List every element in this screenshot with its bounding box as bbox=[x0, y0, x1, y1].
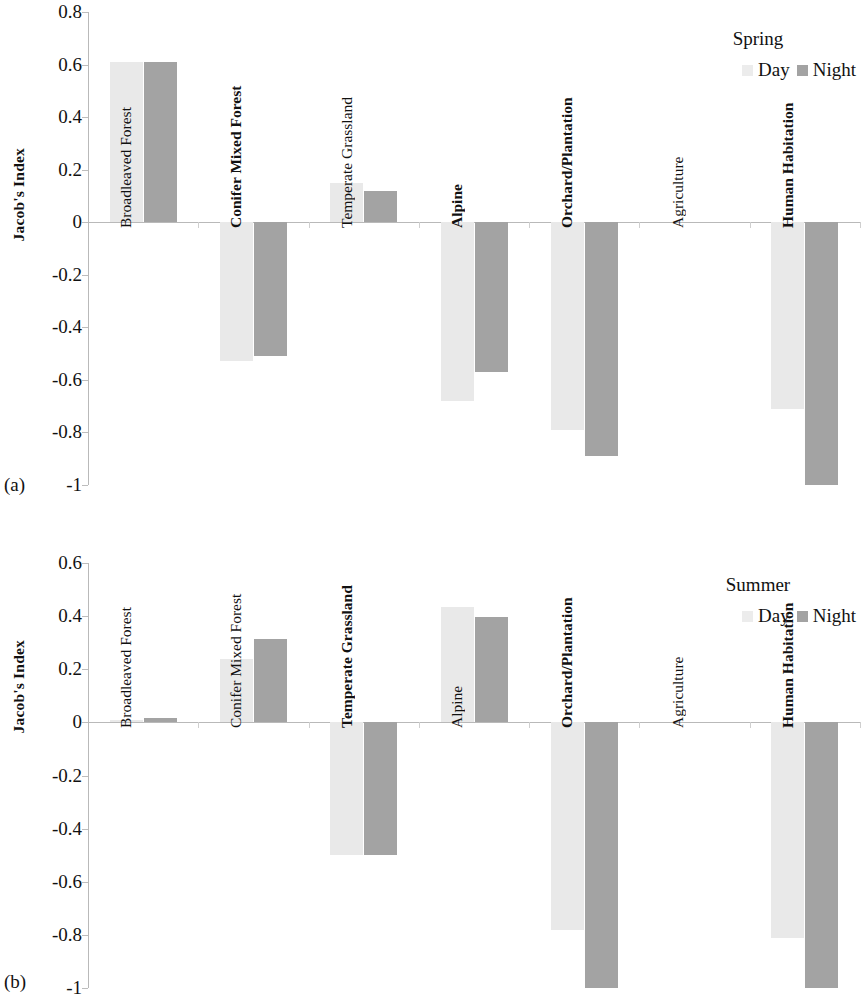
bar-night-4 bbox=[585, 222, 618, 456]
bar-day-3 bbox=[441, 222, 474, 401]
legend-a: Spring Day Night bbox=[660, 28, 856, 81]
bar-night-6 bbox=[805, 722, 838, 988]
y-tick-mark bbox=[82, 380, 88, 381]
legend-title-b: Summer bbox=[660, 574, 856, 596]
x-category-label: Temperate Grassland bbox=[338, 97, 356, 228]
y-tick-mark bbox=[82, 327, 88, 328]
y-tick-mark bbox=[82, 222, 88, 223]
x-category-label: Orchard/Plantation bbox=[558, 98, 576, 229]
y-tick-label: 0.8 bbox=[58, 2, 82, 21]
bar-day-4 bbox=[551, 722, 584, 929]
x-category-label: Agriculture bbox=[669, 157, 687, 228]
bar-night-3 bbox=[475, 222, 508, 372]
y-tick-mark bbox=[82, 616, 88, 617]
legend-item-day-a: Day bbox=[742, 59, 790, 81]
y-axis-line bbox=[88, 563, 89, 988]
y-tick-label: 0.2 bbox=[58, 659, 82, 678]
x-tick-mark bbox=[860, 722, 861, 728]
y-axis-title-b: Jacob's Index bbox=[10, 640, 28, 733]
bar-day-6 bbox=[771, 222, 804, 409]
y-tick-label: -0.4 bbox=[52, 317, 82, 336]
x-category-label: Agriculture bbox=[669, 657, 687, 728]
bar-day-1 bbox=[220, 222, 253, 361]
x-category-label: Alpine bbox=[448, 184, 466, 228]
y-tick-mark bbox=[82, 669, 88, 670]
legend-label-night-a: Night bbox=[813, 59, 856, 81]
legend-item-day-b: Day bbox=[742, 605, 790, 627]
x-tick-mark bbox=[529, 722, 530, 728]
x-category-label: Human Habitation bbox=[779, 103, 797, 228]
y-tick-mark bbox=[82, 275, 88, 276]
y-tick-mark bbox=[82, 485, 88, 486]
x-category-label: Orchard/Plantation bbox=[558, 598, 576, 729]
y-tick-label: 0.6 bbox=[58, 553, 82, 572]
y-tick-label: -0.4 bbox=[52, 819, 82, 838]
y-tick-mark bbox=[82, 117, 88, 118]
y-tick-label: 0 bbox=[73, 712, 83, 731]
y-tick-label: -0.6 bbox=[52, 872, 82, 891]
x-tick-mark bbox=[309, 722, 310, 728]
y-tick-mark bbox=[82, 882, 88, 883]
y-tick-label: -1 bbox=[66, 475, 82, 494]
legend-label-day-a: Day bbox=[758, 59, 790, 81]
x-tick-mark bbox=[639, 222, 640, 228]
x-tick-mark bbox=[419, 222, 420, 228]
x-tick-mark bbox=[309, 222, 310, 228]
bar-night-6 bbox=[805, 222, 838, 485]
bar-night-1 bbox=[254, 639, 287, 723]
y-tick-mark bbox=[82, 563, 88, 564]
x-category-label: Broadleaved Forest bbox=[117, 607, 135, 728]
x-category-label: Conifer Mixed Forest bbox=[227, 86, 245, 228]
y-tick-label: 0 bbox=[73, 212, 83, 231]
chart-panel-b: Jacob's Index (b) 0.60.40.20-0.2-0.4-0.6… bbox=[0, 512, 863, 1003]
bar-day-6 bbox=[771, 722, 804, 937]
legend-label-day-b: Day bbox=[758, 605, 790, 627]
y-tick-mark bbox=[82, 432, 88, 433]
y-tick-mark bbox=[82, 988, 88, 989]
legend-label-night-b: Night bbox=[813, 605, 856, 627]
bar-night-1 bbox=[254, 222, 287, 356]
bar-night-3 bbox=[475, 617, 508, 722]
y-tick-label: -0.8 bbox=[52, 925, 82, 944]
y-axis-line bbox=[88, 12, 89, 485]
bar-night-0 bbox=[144, 718, 177, 722]
legend-swatch-night-icon bbox=[797, 65, 808, 76]
y-tick-mark bbox=[82, 170, 88, 171]
y-tick-label: -0.2 bbox=[52, 766, 82, 785]
x-tick-mark bbox=[529, 222, 530, 228]
plot-area-a: Broadleaved ForestConifer Mixed ForestTe… bbox=[88, 12, 860, 485]
bar-night-4 bbox=[585, 722, 618, 988]
y-axis-title-a: Jacob's Index bbox=[10, 148, 28, 241]
y-tick-mark bbox=[82, 722, 88, 723]
bar-night-2 bbox=[364, 191, 397, 223]
legend-swatch-day-icon bbox=[742, 65, 753, 76]
legend-swatch-night-icon bbox=[797, 611, 808, 622]
y-tick-label: -0.6 bbox=[52, 370, 82, 389]
legend-item-night-b: Night bbox=[797, 605, 856, 627]
bar-day-2 bbox=[330, 722, 363, 855]
legend-swatch-day-icon bbox=[742, 611, 753, 622]
x-tick-mark bbox=[860, 222, 861, 228]
y-tick-label: -0.8 bbox=[52, 422, 82, 441]
x-category-label: Conifer Mixed Forest bbox=[227, 594, 245, 728]
panel-label-b: (b) bbox=[4, 971, 26, 993]
legend-item-night-a: Night bbox=[797, 59, 856, 81]
x-axis-zero-line bbox=[88, 722, 860, 723]
y-tick-label: 0.2 bbox=[58, 160, 82, 179]
y-tick-mark bbox=[82, 65, 88, 66]
y-tick-label: 0.4 bbox=[58, 107, 82, 126]
x-category-label: Temperate Grassland bbox=[338, 586, 356, 729]
y-tick-label: -0.2 bbox=[52, 265, 82, 284]
x-tick-mark bbox=[198, 722, 199, 728]
y-tick-label: 0.4 bbox=[58, 606, 82, 625]
legend-items-a: Day Night bbox=[660, 59, 856, 81]
x-tick-mark bbox=[639, 722, 640, 728]
bar-night-2 bbox=[364, 722, 397, 855]
x-tick-mark bbox=[750, 222, 751, 228]
x-tick-mark bbox=[419, 722, 420, 728]
y-tick-mark bbox=[82, 12, 88, 13]
y-tick-mark bbox=[82, 935, 88, 936]
x-category-label: Broadleaved Forest bbox=[117, 107, 135, 228]
x-category-label: Alpine bbox=[448, 686, 466, 728]
legend-b: Summer Day Night bbox=[660, 574, 856, 627]
